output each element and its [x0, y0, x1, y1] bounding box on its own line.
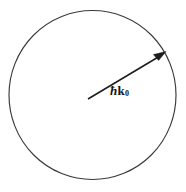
- k-subscript: 0: [125, 89, 129, 98]
- figure-canvas: ħk0: [0, 0, 186, 192]
- wavevector-label: ħk0: [110, 84, 129, 98]
- vector-diagram-svg: [0, 0, 186, 192]
- fermi-sphere-outline-circle: [9, 11, 176, 180]
- k-symbol: k: [117, 83, 124, 98]
